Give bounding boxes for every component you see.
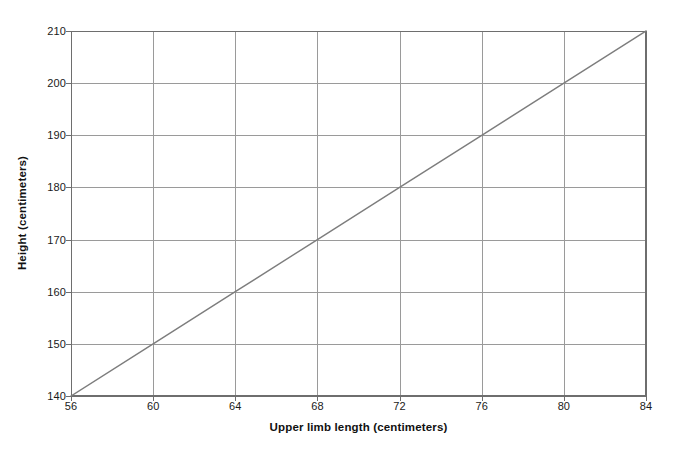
chart-figure: Height (centimeters) 1401501601701801902… <box>0 0 678 449</box>
x-tick-label-72: 72 <box>393 401 405 412</box>
y-tick-label-200: 200 <box>47 78 66 89</box>
x-tick-label-56: 56 <box>65 401 77 412</box>
y-axis-tick-labels: 140150160170180190200210 <box>0 0 66 449</box>
x-tick-label-68: 68 <box>311 401 323 412</box>
plot-svg <box>71 31 646 396</box>
y-tick-label-150: 150 <box>47 338 66 349</box>
y-axis-ticks <box>66 32 71 397</box>
y-tick-label-190: 190 <box>47 130 66 141</box>
data-series-lines <box>71 31 646 396</box>
y-tick-label-160: 160 <box>47 286 66 297</box>
data-line-height-vs-upper-limb-length <box>71 31 646 396</box>
x-axis-tick-labels: 5660646872768084 <box>0 401 678 417</box>
y-tick-label-180: 180 <box>47 182 66 193</box>
x-axis-title: Upper limb length (centimeters) <box>71 421 646 433</box>
y-tick-label-170: 170 <box>47 234 66 245</box>
y-tick-label-210: 210 <box>47 26 66 37</box>
x-tick-label-60: 60 <box>147 401 159 412</box>
y-tick-label-140: 140 <box>47 391 66 402</box>
x-tick-label-76: 76 <box>475 401 487 412</box>
x-tick-label-80: 80 <box>558 401 570 412</box>
plot-area <box>71 31 646 396</box>
x-tick-label-84: 84 <box>640 401 652 412</box>
x-tick-label-64: 64 <box>229 401 241 412</box>
